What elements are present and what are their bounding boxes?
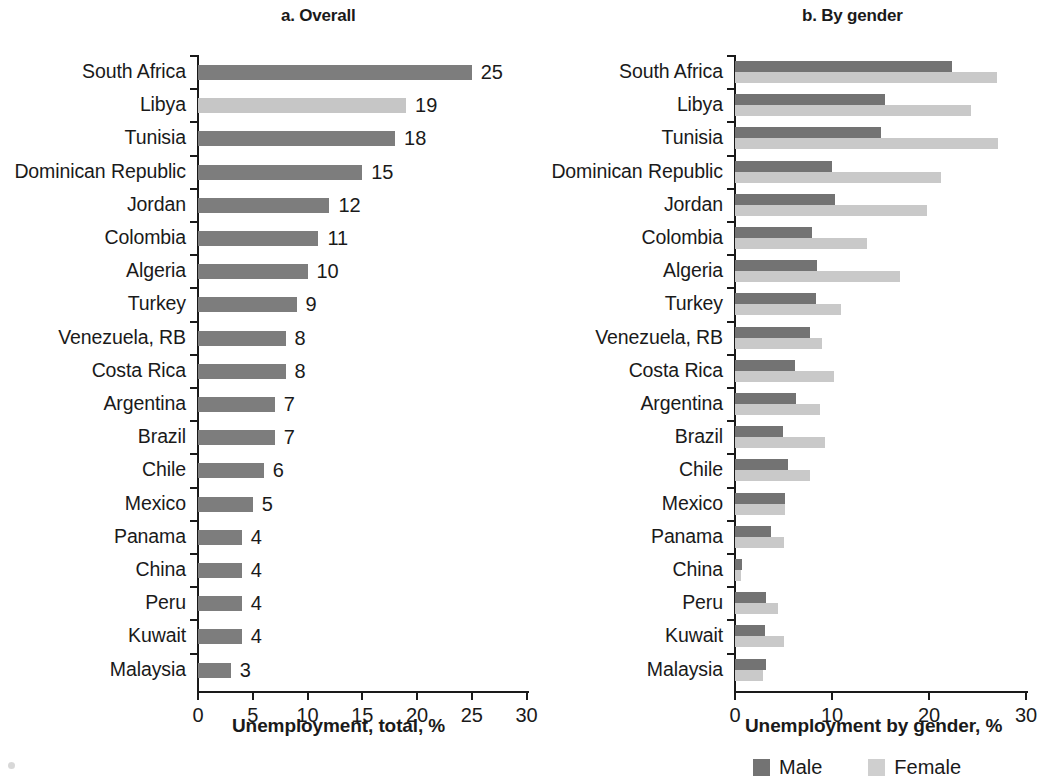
category-label: Brazil xyxy=(138,427,186,447)
y-axis-tick xyxy=(190,221,197,223)
bar-value-label: 10 xyxy=(317,261,339,281)
bar-total xyxy=(198,430,275,445)
category-label: Mexico xyxy=(125,494,186,514)
category-label: Chile xyxy=(142,460,186,480)
bar-female xyxy=(735,603,778,614)
y-axis-tick xyxy=(727,188,734,190)
bar-value-label: 7 xyxy=(284,427,295,447)
bar-male xyxy=(735,94,885,105)
bar-male xyxy=(735,526,771,537)
x-axis-tick xyxy=(197,693,199,700)
category-label: Jordan xyxy=(127,195,186,215)
y-axis-tick xyxy=(727,221,734,223)
bar-male xyxy=(735,426,783,437)
category-label: Tunisia xyxy=(662,128,723,148)
category-label: Argentina xyxy=(103,394,186,414)
panel-overall: a. Overall South Africa25Libya19Tunisia1… xyxy=(0,0,523,782)
category-label: Libya xyxy=(677,95,723,115)
bar-female xyxy=(735,138,998,149)
category-label: Algeria xyxy=(126,261,186,281)
y-axis-tick xyxy=(190,453,197,455)
bar-value-label: 9 xyxy=(306,294,317,314)
bar-female xyxy=(735,304,841,315)
bar-male xyxy=(735,260,817,271)
bar-total xyxy=(198,563,242,578)
y-axis-tick xyxy=(727,487,734,489)
category-label: Venezuela, RB xyxy=(58,328,186,348)
x-axis-tick xyxy=(831,693,833,700)
category-label: Kuwait xyxy=(128,626,186,646)
y-axis-tick xyxy=(190,121,197,123)
bar-female xyxy=(735,437,825,448)
y-axis-tick xyxy=(727,619,734,621)
bar-value-label: 4 xyxy=(251,626,262,646)
bar-female xyxy=(735,537,784,548)
panel-a-axis-title: Unemployment, total, % xyxy=(232,715,445,737)
x-axis-tick-label: 30 xyxy=(1015,705,1037,725)
bar-value-label: 7 xyxy=(284,394,295,414)
category-label: Chile xyxy=(679,460,723,480)
y-axis-tick xyxy=(190,321,197,323)
category-label: Panama xyxy=(651,527,723,547)
bar-total xyxy=(198,131,395,146)
bar-total xyxy=(198,463,264,478)
legend-label-female: Female xyxy=(894,756,961,779)
bar-total xyxy=(198,165,362,180)
bar-value-label: 4 xyxy=(251,593,262,613)
category-label: Colombia xyxy=(104,228,186,248)
y-axis-tick xyxy=(190,55,197,57)
bar-male xyxy=(735,592,766,603)
bar-total xyxy=(198,397,275,412)
category-label: Panama xyxy=(114,527,186,547)
bar-female xyxy=(735,271,900,282)
bar-male xyxy=(735,293,816,304)
category-label: Libya xyxy=(140,95,186,115)
bar-female xyxy=(735,172,941,183)
bar-female xyxy=(735,105,971,116)
y-axis-tick xyxy=(727,653,734,655)
bar-male xyxy=(735,459,788,470)
x-axis-tick-label: 0 xyxy=(729,705,740,725)
panel-a-plot-area: South Africa25Libya19Tunisia18Dominican … xyxy=(0,52,523,672)
bar-total xyxy=(198,264,308,279)
bar-female xyxy=(735,636,784,647)
bar-male xyxy=(735,393,796,404)
y-axis-tick xyxy=(190,188,197,190)
bar-value-label: 18 xyxy=(404,128,426,148)
bar-male xyxy=(735,61,952,72)
category-label: Turkey xyxy=(128,294,186,314)
x-axis-tick xyxy=(307,693,309,700)
bar-male xyxy=(735,161,832,172)
y-axis-tick xyxy=(190,653,197,655)
bar-value-label: 8 xyxy=(295,328,306,348)
bar-total xyxy=(198,530,242,545)
y-axis-tick xyxy=(727,88,734,90)
category-label: Algeria xyxy=(663,261,723,281)
legend-entry-male: Male xyxy=(753,756,822,779)
panel-b-axis-title: Unemployment by gender, % xyxy=(745,715,1002,737)
bar-total xyxy=(198,98,406,113)
y-axis-tick xyxy=(190,586,197,588)
scan-speck xyxy=(8,762,15,769)
y-axis-tick xyxy=(727,520,734,522)
bar-female xyxy=(735,205,927,216)
bar-female xyxy=(735,72,997,83)
bar-male xyxy=(735,493,785,504)
bar-female xyxy=(735,404,820,415)
y-axis-tick xyxy=(190,254,197,256)
category-label: Jordan xyxy=(664,195,723,215)
bar-female xyxy=(735,238,867,249)
x-axis-tick xyxy=(252,693,254,700)
bar-male xyxy=(735,659,766,670)
bar-female xyxy=(735,371,834,382)
bar-value-label: 4 xyxy=(251,527,262,547)
y-axis-tick xyxy=(727,55,734,57)
bar-total xyxy=(198,297,297,312)
bar-total xyxy=(198,331,286,346)
category-label: China xyxy=(673,560,723,580)
y-axis-tick xyxy=(727,453,734,455)
bar-value-label: 3 xyxy=(240,660,251,680)
y-axis-tick xyxy=(190,387,197,389)
bar-value-label: 15 xyxy=(371,162,393,182)
x-axis-tick xyxy=(416,693,418,700)
